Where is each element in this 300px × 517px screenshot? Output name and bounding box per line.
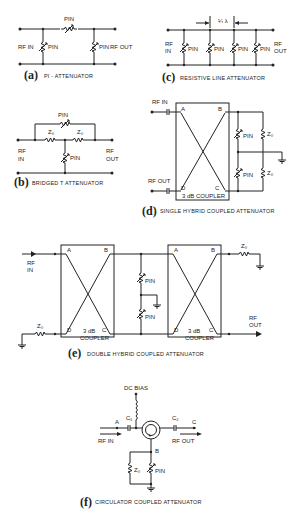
svg-text:C: C	[215, 185, 220, 191]
svg-text:B: B	[211, 247, 215, 253]
svg-text:Z₀: Z₀	[134, 467, 141, 473]
svg-text:PIN: PIN	[155, 468, 165, 474]
svg-text:C₂: C₂	[172, 415, 179, 421]
svg-text:PIN: PIN	[99, 44, 109, 50]
svg-text:B: B	[218, 106, 222, 112]
figure-letter: (a)	[24, 68, 38, 82]
figure-caption: SINGLE HYBRID COUPLED ATTENUATOR	[160, 208, 275, 214]
figure-f-circulator-attenuator: DC BIAS A C₁ RF IN C₂ C RF OUT B	[80, 385, 202, 509]
svg-text:IN: IN	[18, 156, 24, 162]
svg-text:COUPLER: COUPLER	[185, 335, 215, 341]
svg-text:RF: RF	[274, 41, 282, 47]
figure-c-resistive-line-attenuator: ¼ λ RF IN PIN PIN PIN PIN RF OUT (c) RES…	[162, 16, 287, 84]
figure-caption: PI - ATTENUATOR	[44, 73, 93, 79]
svg-text:COUPLER: COUPLER	[80, 335, 110, 341]
figure-letter: (c)	[162, 70, 175, 84]
svg-text:C: C	[209, 327, 214, 333]
figure-a-pi-attenuator: PIN RF IN PIN PIN RF OUT (a) PI - ATTENU…	[18, 16, 133, 82]
svg-text:PIN: PIN	[260, 46, 270, 52]
svg-text:PIN: PIN	[243, 133, 253, 139]
svg-text:RF: RF	[18, 148, 26, 154]
figure-e-double-hybrid-attenuator: A B D C 3 dB COUPLER A B D C 3 dB COUPLE…	[18, 243, 264, 360]
coupler-label: 3 dB COUPLER	[182, 193, 226, 199]
svg-text:RF: RF	[27, 260, 35, 266]
figure-caption: DOUBLE HYBRID COUPLED ATTENUATOR	[87, 351, 204, 357]
svg-text:PIN: PIN	[214, 46, 224, 52]
svg-text:Z₀: Z₀	[48, 129, 55, 135]
svg-text:D: D	[67, 327, 72, 333]
svg-text:3 dB: 3 dB	[188, 328, 200, 334]
svg-text:C₁: C₁	[126, 415, 132, 421]
rf-out-label: RF OUT	[110, 44, 133, 50]
svg-text:Z₀: Z₀	[267, 131, 274, 137]
rf-out-label: RF OUT	[148, 178, 171, 184]
figure-letter: (f)	[80, 495, 92, 509]
svg-text:PIN: PIN	[188, 46, 198, 52]
svg-text:RF: RF	[249, 315, 257, 321]
svg-text:A: A	[181, 106, 185, 112]
svg-text:Z₀: Z₀	[267, 170, 274, 176]
svg-text:B: B	[104, 247, 108, 253]
svg-text:C: C	[102, 327, 107, 333]
svg-text:Z₀: Z₀	[37, 323, 44, 329]
svg-text:PIN: PIN	[145, 278, 155, 284]
svg-text:B: B	[155, 448, 159, 454]
svg-text:PIN: PIN	[238, 46, 248, 52]
svg-text:OUT: OUT	[106, 156, 119, 162]
figure-caption: BRIDGED T ATTENUATOR	[32, 180, 103, 186]
svg-text:3 dB: 3 dB	[83, 328, 95, 334]
figure-letter: (b)	[14, 175, 29, 189]
svg-text:PIN: PIN	[70, 155, 80, 161]
dc-bias-label: DC BIAS	[124, 385, 148, 391]
quarter-wavelength-label: ¼ λ	[218, 18, 228, 24]
figure-b-bridged-t-attenuator: PIN Z₀ Z₀ RF IN PIN RF OUT (b) BRIDGED T…	[14, 112, 119, 189]
svg-text:Z₀: Z₀	[241, 243, 248, 249]
figure-letter: (e)	[68, 346, 81, 360]
svg-text:C: C	[192, 419, 197, 425]
svg-text:PIN: PIN	[243, 172, 253, 178]
rf-in-label: RF IN	[152, 99, 168, 105]
svg-text:PIN: PIN	[48, 44, 58, 50]
svg-text:IN: IN	[27, 267, 33, 273]
svg-text:IN: IN	[165, 48, 171, 54]
figure-d-single-hybrid-attenuator: A B D C 3 dB COUPLER RF IN RF OUT PIN PI…	[142, 99, 286, 218]
svg-text:D: D	[174, 327, 179, 333]
svg-text:A: A	[174, 247, 178, 253]
svg-text:A: A	[115, 419, 119, 425]
svg-text:PIN: PIN	[58, 112, 68, 118]
svg-text:OUT: OUT	[249, 322, 262, 328]
figure-caption: RESISTIVE LINE ATTENUATOR	[180, 75, 265, 81]
svg-text:RF: RF	[106, 148, 114, 154]
svg-text:OUT: OUT	[274, 48, 287, 54]
figure-caption: CIRCULATOR COUPLED ATTENUATOR	[95, 499, 202, 505]
figure-letter: (d)	[142, 204, 157, 218]
rf-in-label: RF IN	[18, 44, 34, 50]
rf-in-label: RF IN	[98, 438, 114, 444]
svg-text:A: A	[67, 247, 71, 253]
pin-label: PIN	[64, 16, 74, 22]
svg-text:PIN: PIN	[145, 314, 155, 320]
svg-text:D: D	[181, 185, 186, 191]
rf-out-label: RF OUT	[172, 438, 195, 444]
svg-text:Z₀: Z₀	[77, 129, 84, 135]
svg-text:RF: RF	[165, 41, 173, 47]
attenuator-diagrams: PIN RF IN PIN PIN RF OUT (a) PI - ATTENU…	[0, 0, 300, 517]
